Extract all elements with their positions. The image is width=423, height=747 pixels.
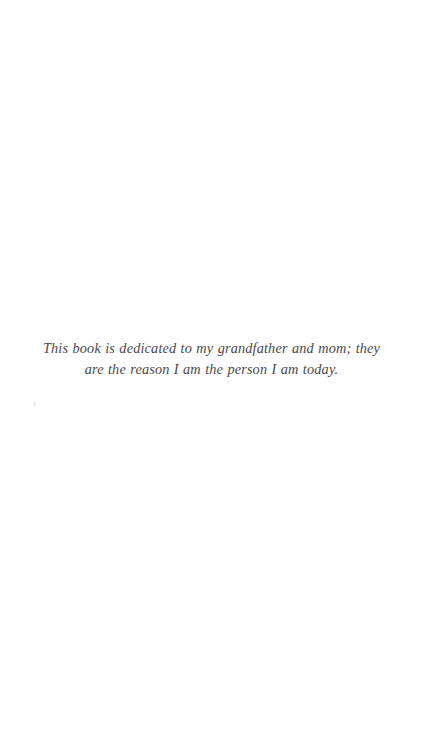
dedication-block: This book is dedicated to my grandfather… [0,338,423,380]
dedication-text: This book is dedicated to my grandfather… [36,338,387,380]
scan-artifact-speck [33,402,36,406]
book-page: This book is dedicated to my grandfather… [0,0,423,747]
